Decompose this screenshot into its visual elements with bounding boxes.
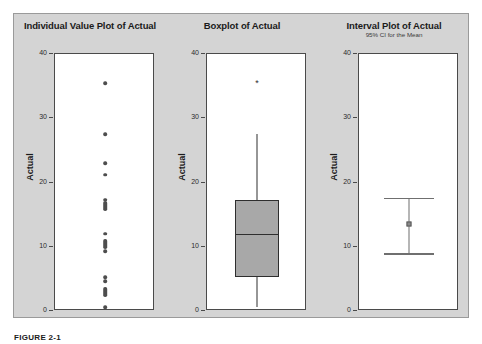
data-point [103, 133, 107, 137]
data-point [103, 287, 107, 297]
data-point [103, 275, 107, 279]
y-axis-tick-mark [49, 117, 53, 118]
y-axis-label-interval-plot: Actual [329, 153, 339, 181]
upper-whisker [257, 134, 258, 200]
y-axis-tick-mark [49, 246, 53, 247]
data-point [103, 239, 107, 249]
panel-title-interval-plot: Interval Plot of Actual [318, 20, 470, 31]
y-axis-tick-mark [353, 246, 357, 247]
box-iqr [235, 200, 279, 277]
outlier-marker: * [255, 78, 259, 87]
data-point [103, 232, 107, 236]
panel-individual-value-plot: Individual Value Plot of Actual Actual 4… [14, 14, 166, 319]
figure-container: Individual Value Plot of Actual Actual 4… [13, 13, 469, 318]
y-axis-tick-label: 0 [347, 305, 351, 314]
y-axis-tick-label: 0 [195, 305, 199, 314]
mean-marker [407, 222, 412, 227]
y-axis-tick-label: 10 [191, 241, 199, 250]
y-axis-tick-label: 40 [39, 48, 47, 57]
confidence-interval-upper-cap [384, 198, 434, 200]
figure-caption: FIGURE 2-1 [14, 333, 61, 344]
lower-whisker [257, 277, 258, 307]
data-point [103, 249, 107, 253]
panel-subtitle-interval-plot: 95% CI for the Mean [318, 31, 470, 38]
panel-title-boxplot: Boxplot of Actual [166, 20, 318, 31]
data-point [103, 161, 107, 165]
y-axis-label-boxplot: Actual [177, 153, 187, 181]
y-axis-tick-label: 30 [191, 112, 199, 121]
data-point [103, 173, 107, 177]
y-axis-tick-mark [201, 310, 205, 311]
y-axis-tick-label: 30 [343, 112, 351, 121]
y-axis-tick-label: 20 [343, 177, 351, 186]
data-point [103, 201, 107, 211]
y-axis-tick-mark [353, 310, 357, 311]
panel-boxplot: Boxplot of Actual Actual 403020100 * [166, 14, 318, 319]
y-axis-tick-mark [353, 182, 357, 183]
data-point [103, 81, 107, 85]
y-axis-tick-mark [49, 53, 53, 54]
y-axis-tick-label: 30 [39, 112, 47, 121]
y-axis-tick-mark [353, 53, 357, 54]
plot-area-individual-value-plot [54, 53, 154, 310]
y-axis-tick-label: 0 [43, 305, 47, 314]
y-axis-tick-mark [201, 117, 205, 118]
data-point [103, 280, 107, 284]
data-point [103, 305, 107, 309]
y-axis-tick-label: 40 [191, 48, 199, 57]
y-axis-tick-mark [49, 310, 53, 311]
panel-title-individual-value-plot: Individual Value Plot of Actual [14, 20, 166, 31]
y-axis-label-individual-value-plot: Actual [25, 153, 35, 181]
plot-area-boxplot: * [206, 53, 306, 310]
y-axis-tick-label: 20 [39, 177, 47, 186]
confidence-interval-lower-cap [384, 253, 434, 255]
y-axis-tick-label: 10 [39, 241, 47, 250]
y-axis-tick-mark [201, 53, 205, 54]
y-axis-tick-label: 20 [191, 177, 199, 186]
y-axis-tick-mark [201, 182, 205, 183]
median-line [235, 234, 279, 236]
y-axis-tick-mark [353, 117, 357, 118]
y-axis-tick-mark [49, 182, 53, 183]
panel-interval-plot: Interval Plot of Actual 95% CI for the M… [318, 14, 470, 319]
plot-area-interval-plot [358, 53, 458, 310]
y-axis-tick-label: 10 [343, 241, 351, 250]
y-axis-tick-label: 40 [343, 48, 351, 57]
y-axis-tick-mark [201, 246, 205, 247]
